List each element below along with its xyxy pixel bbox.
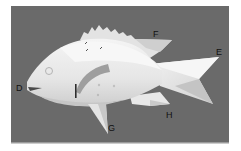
label-e: E xyxy=(216,47,222,57)
fish-model-photo: D E F G H xyxy=(0,0,241,151)
label-h: H xyxy=(166,110,173,120)
label-g: G xyxy=(108,123,115,133)
label-f: F xyxy=(153,29,159,39)
label-d: D xyxy=(16,83,23,93)
